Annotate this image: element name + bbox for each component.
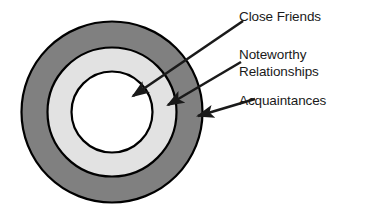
label-noteworthy-relationships: NoteworthyRelationships <box>239 47 319 80</box>
diagram-canvas: Close Friends NoteworthyRelationships Ac… <box>0 0 378 221</box>
label-noteworthy-line-1: Noteworthy <box>239 47 306 62</box>
concentric-rings-graphic <box>0 0 378 221</box>
label-noteworthy-line-2: Relationships <box>239 64 319 79</box>
label-acquaintances: Acquaintances <box>239 93 326 110</box>
ring-close-friends[interactable] <box>72 72 153 153</box>
label-close-friends: Close Friends <box>239 9 321 26</box>
